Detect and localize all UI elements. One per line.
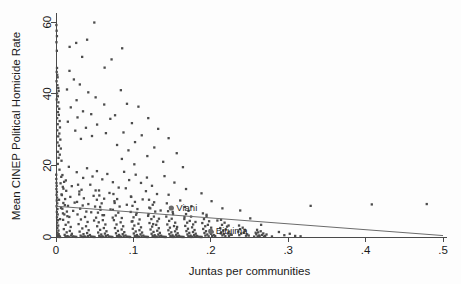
data-point bbox=[158, 218, 160, 220]
data-point bbox=[223, 222, 225, 224]
data-point bbox=[182, 166, 184, 168]
data-point bbox=[165, 215, 167, 217]
data-point bbox=[82, 110, 84, 112]
data-point bbox=[256, 229, 258, 231]
data-point bbox=[123, 171, 125, 173]
data-point bbox=[99, 229, 101, 231]
data-point bbox=[93, 219, 95, 221]
data-point bbox=[149, 207, 151, 209]
data-point bbox=[56, 84, 58, 86]
data-point bbox=[61, 208, 63, 210]
data-point bbox=[94, 96, 96, 98]
data-point bbox=[57, 157, 59, 159]
data-point bbox=[151, 185, 153, 187]
data-point bbox=[154, 210, 156, 212]
data-point bbox=[65, 236, 67, 238]
data-point bbox=[153, 146, 155, 148]
point-label: Bituima bbox=[216, 225, 248, 236]
data-point bbox=[138, 218, 140, 220]
data-point bbox=[77, 223, 79, 225]
data-point bbox=[96, 199, 98, 201]
data-point bbox=[126, 103, 128, 105]
data-point bbox=[294, 235, 296, 237]
data-point bbox=[123, 235, 125, 237]
data-point bbox=[56, 185, 58, 187]
data-point bbox=[57, 151, 59, 153]
data-point bbox=[114, 114, 116, 116]
y-tick-label: 60 bbox=[41, 16, 53, 29]
data-point bbox=[83, 197, 85, 199]
data-point bbox=[156, 193, 158, 195]
data-point bbox=[87, 235, 89, 237]
data-point bbox=[101, 202, 103, 204]
data-point bbox=[135, 230, 137, 232]
data-point bbox=[171, 218, 173, 220]
data-point bbox=[74, 130, 76, 132]
data-point bbox=[114, 227, 116, 229]
data-point bbox=[58, 108, 60, 110]
data-point bbox=[96, 170, 98, 172]
data-point bbox=[371, 203, 373, 205]
data-point bbox=[86, 39, 88, 41]
data-point bbox=[112, 181, 114, 183]
data-point bbox=[63, 181, 65, 183]
data-point bbox=[158, 227, 160, 229]
data-point bbox=[135, 214, 137, 216]
data-point bbox=[79, 83, 81, 85]
data-point bbox=[191, 226, 193, 228]
data-point bbox=[82, 233, 84, 235]
data-point bbox=[80, 189, 82, 191]
data-point bbox=[112, 217, 114, 219]
data-point bbox=[131, 220, 133, 222]
data-point bbox=[289, 233, 291, 235]
data-point bbox=[150, 218, 152, 220]
data-point bbox=[185, 230, 187, 232]
data-point bbox=[138, 229, 140, 231]
data-point bbox=[183, 218, 185, 220]
x-tick-label: 0 bbox=[53, 244, 59, 256]
highlighted-data-point bbox=[208, 229, 213, 234]
data-point bbox=[57, 229, 59, 231]
data-point bbox=[68, 166, 70, 168]
y-tick-label: 0 bbox=[41, 234, 53, 240]
data-point bbox=[58, 114, 60, 116]
data-point bbox=[122, 131, 124, 133]
data-point bbox=[176, 235, 178, 237]
data-point bbox=[89, 184, 91, 186]
data-point bbox=[125, 187, 127, 189]
data-point bbox=[56, 117, 58, 119]
data-point bbox=[82, 177, 84, 179]
data-point bbox=[148, 222, 150, 224]
data-point bbox=[56, 196, 58, 198]
data-point bbox=[130, 196, 132, 198]
data-point bbox=[56, 50, 58, 52]
data-point bbox=[65, 190, 67, 192]
data-point bbox=[211, 235, 213, 237]
data-point bbox=[207, 235, 209, 237]
data-point bbox=[159, 209, 161, 211]
data-point bbox=[116, 198, 118, 200]
data-point bbox=[131, 205, 133, 207]
data-point bbox=[168, 233, 170, 235]
data-point bbox=[189, 220, 191, 222]
data-point bbox=[57, 90, 59, 92]
data-point bbox=[120, 228, 122, 230]
data-point bbox=[78, 190, 80, 192]
data-point bbox=[167, 210, 169, 212]
data-point bbox=[64, 198, 66, 200]
data-point bbox=[115, 232, 117, 234]
data-point bbox=[67, 121, 69, 123]
data-point bbox=[255, 233, 257, 235]
data-point bbox=[153, 215, 155, 217]
data-point bbox=[60, 176, 62, 178]
data-point bbox=[104, 223, 106, 225]
data-point bbox=[94, 205, 96, 207]
data-point bbox=[158, 235, 160, 237]
data-point bbox=[87, 91, 89, 93]
data-point bbox=[174, 230, 176, 232]
data-point bbox=[55, 41, 57, 43]
data-point bbox=[58, 132, 60, 134]
data-point bbox=[59, 126, 61, 128]
data-point bbox=[128, 179, 130, 181]
data-point bbox=[76, 116, 78, 118]
